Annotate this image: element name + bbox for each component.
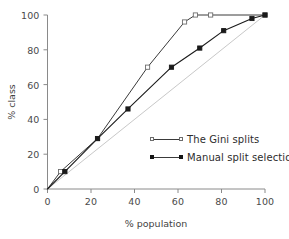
open-square-marker-icon [150,137,154,141]
legend-swatch-open-square [150,134,183,144]
x-tick-label: 60 [172,196,184,207]
legend-line [153,157,180,158]
x-axis-title: % population [125,218,188,229]
y-tick-label: 100 [0,10,40,21]
filled-square-marker-icon [179,155,183,159]
x-tick-label: 40 [128,196,140,207]
legend-item-manual: Manual split selection [150,148,289,166]
chart-legend: The Gini splits Manual split selection [150,130,289,166]
x-axis-ticks [48,189,266,193]
legend-item-gini: The Gini splits [150,130,289,148]
y-axis-ticks [44,15,48,189]
x-tick-label: 100 [256,196,274,207]
x-tick-label: 80 [215,196,227,207]
legend-label-gini: The Gini splits [187,134,259,145]
y-tick-label: 0 [0,184,40,195]
x-tick-label: 0 [44,196,50,207]
y-tick-label: 80 [0,44,40,55]
filled-square-marker-icon [150,155,154,159]
x-tick-label: 20 [85,196,97,207]
lorenz-curve-chart: 020406080100 020406080100 % population %… [0,0,289,239]
plot-area [0,0,289,239]
y-axis-title: % class [6,84,17,120]
open-square-marker-icon [179,137,183,141]
legend-label-manual: Manual split selection [187,152,289,163]
y-tick-label: 20 [0,149,40,160]
legend-line [153,139,180,140]
legend-swatch-filled-square [150,152,183,162]
